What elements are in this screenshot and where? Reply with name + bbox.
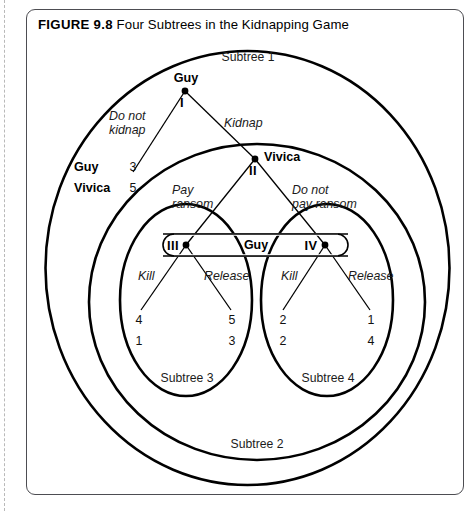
action-kill-right: Kill: [281, 270, 298, 284]
node-2-player-label: Vivica: [264, 150, 300, 164]
action-release-right: Release: [348, 270, 393, 284]
payoff-release-right-vivica: 4: [368, 334, 375, 348]
node-2-numeral: II: [249, 163, 257, 178]
game-tree-diagram: [0, 0, 476, 511]
payoff-release-left-vivica: 3: [229, 334, 236, 348]
action-do-not-pay-ransom: Do not pay ransom: [292, 184, 357, 211]
payoff-do-not-kidnap-vivica: 5: [130, 181, 137, 195]
subtree-1-label: Subtree 1: [222, 50, 275, 64]
payoff-do-not-kidnap-guy: 3: [130, 160, 137, 174]
subtree-2-ellipse: [89, 144, 425, 460]
action-pay-ransom-line2: ransom: [172, 198, 213, 212]
node-1-dot: [182, 88, 189, 95]
node-1-numeral: I: [180, 95, 184, 110]
subtree-3-label: Subtree 3: [161, 371, 214, 385]
node-2-dot: [252, 156, 259, 163]
payoff-kill-right-vivica: 2: [280, 334, 287, 348]
action-do-not-kidnap-line1: Do not: [109, 110, 146, 124]
action-do-not-kidnap: Do not kidnap: [109, 110, 146, 137]
subtree-2-label: Subtree 2: [231, 437, 284, 451]
payoff-kill-right-guy: 2: [280, 313, 287, 327]
action-pay-ransom: Pay ransom: [172, 184, 213, 211]
figure-page: FIGURE 9.8 Four Subtrees in the Kidnappi…: [0, 0, 476, 511]
subtree-3-ellipse: [120, 204, 252, 396]
action-do-not-pay-ransom-line1: Do not: [292, 184, 357, 198]
node-1-player-label: Guy: [174, 71, 199, 85]
action-release-left: Release: [204, 270, 249, 284]
node-4-dot: [322, 242, 329, 249]
action-kidnap: Kidnap: [224, 117, 263, 131]
payoff-legend-player-2: Vivica: [74, 181, 110, 195]
node-4-numeral: IV: [305, 238, 318, 253]
action-do-not-pay-ransom-line2: pay ransom: [292, 198, 357, 212]
payoff-kill-left-guy: 4: [136, 313, 143, 327]
node-3-numeral: III: [167, 238, 179, 253]
information-set-label: Guy: [244, 238, 268, 252]
node-3-dot: [183, 242, 190, 249]
action-kill-left: Kill: [138, 270, 155, 284]
action-pay-ransom-line1: Pay: [172, 184, 213, 198]
subtree-4-label: Subtree 4: [302, 371, 355, 385]
subtree-4-ellipse: [261, 204, 393, 396]
action-do-not-kidnap-line2: kidnap: [109, 124, 146, 138]
payoff-release-left-guy: 5: [229, 313, 236, 327]
payoff-kill-left-vivica: 1: [136, 334, 143, 348]
payoff-release-right-guy: 1: [368, 313, 375, 327]
payoff-legend-player-1: Guy: [74, 160, 99, 174]
